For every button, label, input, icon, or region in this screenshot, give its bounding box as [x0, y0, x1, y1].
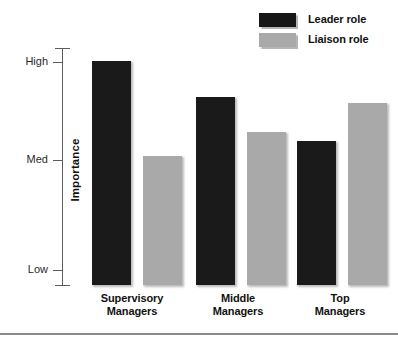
- category-label-middle-managers: Middle Managers: [184, 292, 292, 318]
- bar-chart: Leader role Liaison role High Med Low Im…: [0, 0, 398, 339]
- category-label-line-2: Managers: [184, 305, 292, 318]
- category-label-line-1: Top: [286, 292, 394, 305]
- category-label-top-managers: Top Managers: [286, 292, 394, 318]
- category-label-line-1: Middle: [184, 292, 292, 305]
- category-label-line-2: Managers: [76, 305, 188, 318]
- category-label-line-1: Supervisory: [76, 292, 188, 305]
- category-label-supervisory-managers: Supervisory Managers: [76, 292, 188, 318]
- bar-middle-leader: [195, 96, 235, 285]
- bar-top-leader: [296, 140, 336, 285]
- plot-area: [0, 0, 398, 339]
- bar-top-liaison: [347, 102, 387, 285]
- bar-middle-liaison: [246, 131, 286, 285]
- bar-supervisory-leader: [91, 60, 131, 285]
- bar-supervisory-liaison: [142, 155, 182, 285]
- category-label-line-2: Managers: [286, 305, 394, 318]
- bottom-divider: [0, 333, 398, 335]
